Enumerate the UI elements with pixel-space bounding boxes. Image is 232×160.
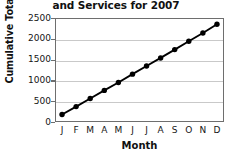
data-point — [88, 96, 93, 101]
y-tick-label: 1500 — [17, 55, 51, 64]
y-tick-mark — [51, 80, 55, 81]
data-point — [214, 22, 219, 27]
y-tick-mark — [51, 60, 55, 61]
data-point — [59, 112, 64, 117]
data-point — [200, 30, 205, 35]
y-tick-label: 1000 — [17, 76, 51, 85]
y-axis-title: Cumulative Total ($ billions) — [4, 0, 15, 84]
series-line — [62, 24, 217, 114]
data-point — [73, 104, 78, 109]
data-point — [130, 71, 135, 76]
y-tick-label: 2500 — [17, 14, 51, 23]
y-tick-label: 2000 — [17, 34, 51, 43]
y-tick-mark — [51, 18, 55, 19]
data-point — [102, 88, 107, 93]
data-point — [186, 39, 191, 44]
data-point — [144, 63, 149, 68]
y-tick-mark — [51, 122, 55, 123]
x-tick-label: D — [209, 125, 225, 135]
data-point — [116, 80, 121, 85]
x-axis-title: Month — [55, 140, 224, 151]
y-tick-mark — [51, 39, 55, 40]
data-series-layer — [55, 18, 224, 122]
y-tick-label: 0 — [17, 118, 51, 127]
data-point — [158, 55, 163, 60]
data-point — [172, 47, 177, 52]
y-tick-mark — [51, 101, 55, 102]
chart-title: and Services for 2007 — [0, 0, 232, 11]
y-tick-label: 500 — [17, 97, 51, 106]
chart-figure: and Services for 2007 Cumulative Total (… — [0, 0, 232, 160]
